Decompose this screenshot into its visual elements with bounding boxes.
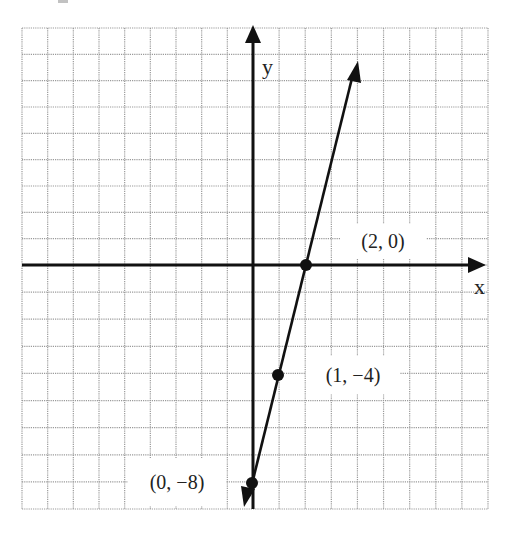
point-0-neg8 (246, 477, 258, 489)
x-axis-arrow-icon (468, 257, 486, 273)
x-axis-label: x (474, 274, 485, 299)
grid (22, 28, 488, 509)
coordinate-plane: x y (2, 0) (1, −4) (0, −8) (0, 0, 508, 536)
svg-text:(1, −4): (1, −4) (326, 364, 381, 387)
line-arrow-up-icon (347, 61, 361, 83)
point-1-neg4 (272, 369, 284, 381)
point-label-0-neg8: (0, −8) (128, 458, 226, 506)
point-2-0 (300, 259, 312, 271)
y-axis-label: y (262, 54, 273, 79)
svg-text:(0, −8): (0, −8) (150, 471, 205, 494)
y-axis (245, 25, 261, 509)
cropped-heading-fragment (58, 0, 68, 3)
point-label-2-0: (2, 0) (340, 224, 426, 258)
graph-line (241, 61, 361, 507)
point-label-1-neg4: (1, −4) (306, 356, 400, 394)
svg-text:(2, 0): (2, 0) (361, 230, 404, 253)
